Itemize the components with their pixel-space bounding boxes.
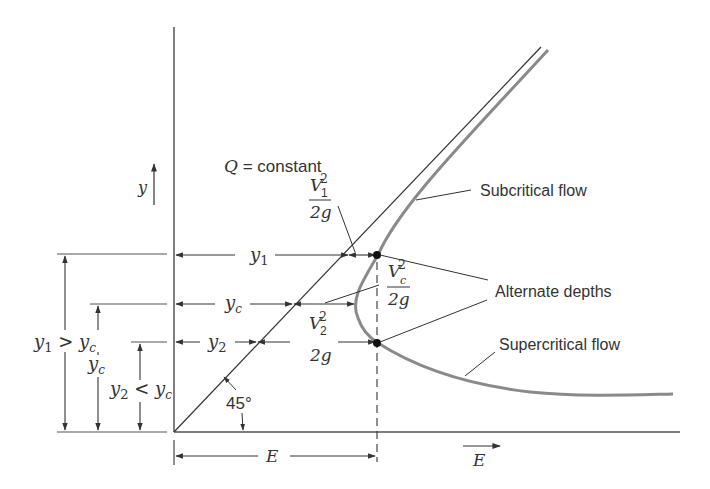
vc-head-leader [325,285,379,303]
y-axis-label: y [137,178,148,197]
angle-arrow-lower [242,413,243,430]
line-45-degree [174,47,541,432]
svg-text:c: c [400,274,406,287]
subcritical-leader [416,190,471,200]
alternate-depths-label: Alternate depths [495,283,612,300]
alternate-depth-point-y1 [373,251,381,259]
e-dimension-label: E [265,446,279,466]
subcritical-flow-label: Subcritical flow [480,182,587,199]
y2-lt-yc-label: y2 < yc [109,378,172,402]
v1-head-leader [338,206,355,252]
alternate-depth-point-y2 [373,339,381,347]
svg-text:2g: 2g [309,345,332,365]
q-constant-label: Q = constant [224,156,322,176]
svg-text:1: 1 [321,186,328,200]
y1-gt-yc-label: y1 > yc [33,331,96,355]
supercritical-flow-label: Supercritical flow [499,336,620,353]
angle-45-label: 45° [226,394,252,413]
svg-text:2: 2 [320,324,327,338]
specific-energy-diagram: Q = constant y E Subcritical flow Altern… [0,0,710,489]
svg-text:2g: 2g [309,202,332,222]
svg-text:2g: 2g [387,289,410,309]
e-axis-label: E [472,450,486,470]
supercritical-leader [465,352,495,376]
angle-arrow-upper [224,377,236,390]
v1-velocity-head-label: V2 1 2g [309,172,332,222]
vc-velocity-head-label: V2 c 2g [387,258,410,309]
